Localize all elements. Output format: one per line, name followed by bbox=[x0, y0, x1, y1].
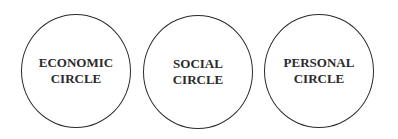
circle-label-line1: SOCIAL bbox=[173, 56, 223, 72]
social-circle: SOCIAL CIRCLE bbox=[143, 15, 253, 129]
circle-label-line2: CIRCLE bbox=[51, 71, 102, 87]
circle-label-line2: CIRCLE bbox=[173, 72, 224, 88]
circle-label-line1: PERSONAL bbox=[284, 55, 355, 71]
circle-label-line1: ECONOMIC bbox=[39, 55, 113, 71]
economic-circle: ECONOMIC CIRCLE bbox=[21, 14, 131, 128]
personal-circle: PERSONAL CIRCLE bbox=[264, 14, 374, 128]
circle-label-line2: CIRCLE bbox=[294, 71, 345, 87]
